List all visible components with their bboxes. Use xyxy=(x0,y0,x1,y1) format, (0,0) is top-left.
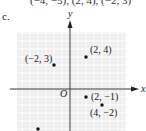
plot-point xyxy=(36,127,39,130)
point-label: (−2, 3) xyxy=(25,53,52,65)
point-label: (2, 4) xyxy=(90,44,112,56)
plot-point xyxy=(52,63,55,66)
point-label: (4, −2) xyxy=(90,107,117,119)
plot-point xyxy=(84,55,87,58)
x-axis-label: x xyxy=(140,83,146,94)
coordinate-plane: x y O (−2, 3)(2, 4)(2, −1)(4, −2) xyxy=(0,0,146,131)
point-label: (2, −1) xyxy=(91,91,118,103)
origin-label: O xyxy=(60,88,67,99)
plot-point xyxy=(84,95,87,98)
y-axis-label: y xyxy=(67,8,73,19)
